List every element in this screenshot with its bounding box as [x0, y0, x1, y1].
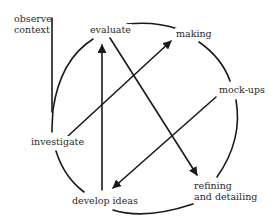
- cycle-arc-mockups-to-refining: [217, 100, 237, 177]
- node-refining-label-line1: refining: [194, 180, 257, 191]
- node-observe-label-line2: context: [14, 24, 52, 35]
- arrow-mockups-to-develop: [113, 97, 216, 188]
- node-mock-ups: mock-ups: [218, 84, 266, 95]
- node-refining-and-detailing: refining and detailing: [193, 180, 258, 202]
- node-evaluate: evaluate: [89, 24, 132, 35]
- node-observe-label-line1: observe: [14, 13, 52, 24]
- node-observe-context: observe context: [13, 13, 53, 35]
- node-develop-ideas: develop ideas: [71, 195, 139, 206]
- cycle-arc-making-to-mockups: [199, 42, 230, 81]
- arrow-investigate-to-making: [68, 41, 171, 136]
- cycle-arc-evaluate-to-making: [127, 23, 178, 29]
- arrow-evaluate-to-refining: [110, 38, 197, 175]
- design-process-diagram: observe context evaluate making mock-ups…: [0, 0, 271, 224]
- node-investigate: investigate: [30, 136, 85, 147]
- cycle-arc-investigate-to-develop: [56, 151, 84, 192]
- node-refining-label-line2: and detailing: [194, 191, 257, 202]
- node-making: making: [175, 28, 213, 39]
